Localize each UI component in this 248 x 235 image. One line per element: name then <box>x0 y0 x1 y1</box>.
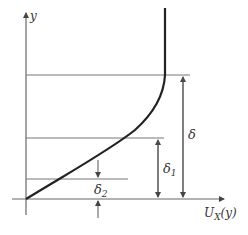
y-axis: y <box>26 9 37 215</box>
y-axis-label: y <box>29 9 37 23</box>
diagram-canvas: y UX(y) δ δ1 δ2 <box>0 0 248 235</box>
x-axis-label: UX(y) <box>204 206 237 222</box>
delta1-dimension: δ1 <box>158 140 177 197</box>
delta2-label: δ2 <box>94 182 108 199</box>
velocity-profile-curve <box>26 8 165 199</box>
x-axis: UX(y) <box>12 199 237 222</box>
delta1-label: δ1 <box>163 161 177 178</box>
delta-label: δ <box>188 127 196 142</box>
delta-dimension: δ <box>183 77 196 197</box>
delta2-dimension: δ2 <box>94 160 108 218</box>
